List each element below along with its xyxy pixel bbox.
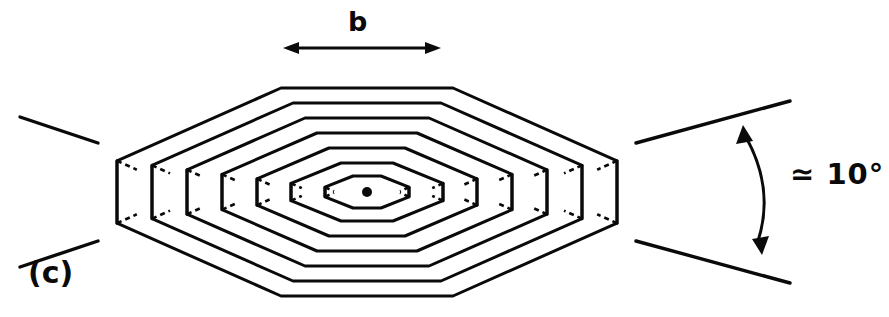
nested-hexagonal-loops-diagram	[0, 0, 889, 317]
ring-hidden-edge-5-1	[187, 207, 203, 214]
ring-hidden-edge-2-0	[291, 183, 302, 188]
figure-panel-c: b ≃ 10° (c)	[0, 0, 889, 317]
ring-hidden-edge-2-3	[432, 196, 443, 201]
panel-label: (c)	[28, 258, 73, 288]
splay-right-top	[636, 101, 790, 143]
ring-hidden-edge-4-2	[498, 174, 512, 180]
ring-hidden-edge-7-1	[117, 214, 137, 223]
ring-hidden-edge-6-2	[564, 165, 582, 173]
angle-arrowhead-top	[736, 125, 753, 144]
ring-hidden-edge-3-0	[257, 179, 270, 185]
burgers-vector-label: b	[348, 8, 367, 35]
ring-hidden-edge-6-0	[152, 165, 170, 173]
ring-hidden-edge-6-3	[564, 211, 582, 219]
dimension-arrowhead-right	[425, 42, 441, 54]
angle-label: ≃ 10°	[790, 160, 884, 189]
ring-hidden-edge-7-2	[597, 161, 617, 170]
ring-hidden-edge-4-0	[222, 174, 236, 180]
ring-hidden-edge-3-1	[257, 200, 270, 206]
ring-hidden-edge-7-3	[597, 214, 617, 223]
splay-left-top	[20, 117, 98, 143]
ring-hidden-edge-5-3	[531, 207, 547, 214]
splay-right-bottom	[636, 241, 790, 283]
ring-hidden-edge-5-2	[531, 170, 547, 177]
ring-hidden-edge-6-1	[152, 211, 170, 219]
angle-arc-shaft	[747, 139, 764, 241]
ring-hidden-edge-4-1	[222, 203, 236, 209]
ring-hidden-edge-3-2	[464, 179, 477, 185]
ring-hidden-edge-2-1	[291, 196, 302, 201]
ring-hidden-edge-7-0	[117, 161, 137, 170]
dimension-arrow-b	[283, 42, 441, 54]
center-dot-marker	[362, 187, 372, 197]
angle-arc-arrow	[736, 125, 769, 255]
dimension-arrowhead-left	[283, 42, 299, 54]
ring-hidden-edge-4-3	[498, 203, 512, 209]
ring-hidden-edge-2-2	[432, 183, 443, 188]
angle-arrowhead-bottom	[752, 236, 769, 255]
ring-hidden-edge-5-0	[187, 170, 203, 177]
splayed-arm-lines-group	[20, 101, 790, 283]
ring-hidden-edge-3-3	[464, 200, 477, 206]
